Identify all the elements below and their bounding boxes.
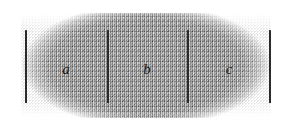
segment-label-b: b	[143, 62, 151, 77]
segment-label-a: a	[62, 62, 70, 77]
second-divider-tick	[187, 30, 189, 103]
figure-canvas: a b c	[0, 0, 293, 129]
right-endpoint-tick	[269, 30, 271, 103]
left-endpoint-tick	[25, 30, 27, 103]
segment-label-c: c	[226, 62, 233, 77]
first-divider-tick	[107, 30, 109, 103]
